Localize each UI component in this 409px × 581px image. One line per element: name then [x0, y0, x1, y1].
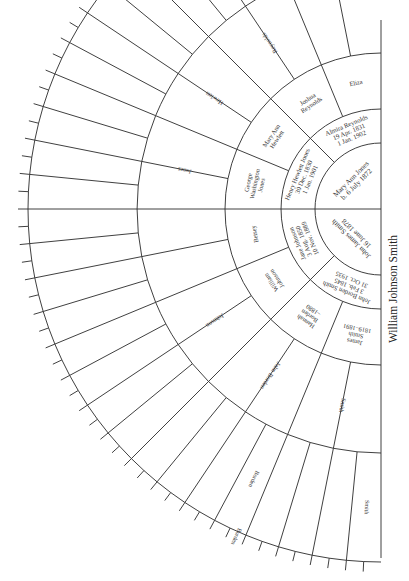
divider-line [39, 328, 48, 331]
ancestor-label: Smith [338, 397, 348, 414]
ancestor-label: Borden [230, 527, 243, 546]
divider-line [35, 140, 142, 161]
ancestor-text: Jones [177, 166, 192, 176]
divider-line [39, 87, 48, 90]
divider-line [131, 382, 208, 459]
divider-line [321, 301, 342, 353]
ancestor-text: Borden [230, 527, 243, 546]
divider-line [288, 0, 322, 65]
divider-line [22, 261, 32, 262]
divider-line [208, 319, 270, 381]
divider-line [179, 503, 185, 511]
divider-line [53, 54, 62, 58]
divider-line [34, 311, 44, 314]
divider-line [124, 459, 131, 466]
divider-line [226, 528, 230, 537]
ancestor-text: Borden [247, 470, 260, 489]
ancestor-label: Smith [364, 500, 371, 515]
ancestor-text: Johnson [205, 312, 226, 329]
ancestor-label: Betsey [249, 224, 259, 243]
ancestor-text: John Borden [259, 361, 282, 391]
ancestor-label: Henry Hewlett Jones30 Dec. 18301 Jan. 19… [283, 147, 324, 206]
divider-line [29, 295, 39, 297]
ancestor-label: John Borden [259, 361, 282, 391]
divider-line [35, 257, 142, 278]
divider-line [151, 482, 157, 490]
ancestor-label: John James Smith16 June 1878 [330, 212, 378, 260]
ancestor-label: Jones [177, 166, 192, 176]
divider-line [185, 0, 246, 6]
ancestor-label: Johnson [205, 312, 226, 329]
divider-line [185, 412, 246, 503]
divider-line [312, 448, 333, 555]
divider-line [30, 233, 138, 244]
divider-line [70, 22, 79, 27]
divider-line [208, 36, 270, 98]
ancestor-label: Jane Johnson3 Aug. 185010 Nov. 1889 [287, 220, 320, 262]
ancestor-label: Mary Ann Jonesb. 6 July 1872 [332, 160, 376, 204]
divider-line [346, 452, 357, 560]
divider-line [259, 541, 262, 550]
divider-line [79, 7, 87, 13]
ancestor-text: Reynolds [259, 31, 278, 55]
ancestor-label: JoshuaReynolds [295, 89, 323, 114]
fan-chart-labels: John James Smith16 June 1878Mary Ann Jon… [177, 31, 378, 546]
ancestor-label: Mary AnnHewlett [261, 122, 287, 152]
divider-line [237, 149, 289, 170]
divider-line [43, 280, 147, 312]
divider-line [100, 433, 108, 439]
divider-line [108, 364, 192, 433]
divider-line [276, 547, 279, 557]
divider-line [237, 247, 289, 268]
ancestor-text: Betsey [249, 224, 259, 243]
divider-line [112, 446, 119, 453]
divider-line [156, 269, 237, 303]
divider-line [34, 104, 44, 107]
fan-chart: John James Smith16 June 1878Mary Ann Jon… [0, 0, 409, 581]
divider-line [142, 239, 228, 256]
divider-line [131, 0, 208, 36]
divider-line [293, 551, 295, 561]
ancestor-label: Reynolds [259, 31, 278, 55]
ancestor-text: 1819–1891 [342, 323, 372, 335]
divider-line [61, 38, 70, 43]
divider-line [25, 138, 35, 140]
divider-line [22, 156, 32, 157]
divider-line [310, 138, 334, 162]
divider-line [156, 116, 237, 150]
divider-line [61, 375, 70, 380]
divider-line [43, 107, 147, 139]
divider-line [30, 174, 138, 185]
divider-line [288, 353, 322, 434]
divider-line [87, 345, 178, 406]
ancestor-label: Borden [247, 470, 260, 489]
ancestor-label: John Borden Smith3 Feb. 184531 Oct. 1935 [321, 267, 377, 306]
ancestor-text: Hewlett [204, 90, 224, 107]
ancestor-label: Hewlett [204, 90, 224, 107]
ancestor-label: GeorgeWashingtonJones [241, 166, 267, 201]
ancestor-text: Smith [364, 500, 371, 515]
divider-line [25, 278, 35, 280]
ancestor-text: Jones [256, 177, 266, 193]
ancestor-label: WilliamJohnson [262, 267, 285, 293]
root-person-name: William Johnson Smith [387, 235, 399, 343]
ancestor-text: Eliza [349, 78, 363, 87]
divider-line [279, 442, 311, 546]
divider-line [165, 493, 171, 501]
divider-line [157, 0, 226, 20]
divider-line [345, 560, 346, 570]
divider-line [310, 555, 312, 565]
divider-line [87, 13, 178, 74]
divider-line [20, 244, 30, 245]
divider-line [46, 70, 55, 74]
divider-line [70, 390, 79, 395]
divider-line [79, 405, 87, 411]
ancestor-label: JamesSmith1819–1891 [340, 323, 372, 349]
divider-line [53, 360, 62, 364]
divider-line [20, 173, 30, 174]
divider-line [29, 121, 39, 123]
ancestor-label: Eliza [349, 78, 363, 87]
ancestor-label: HannahBorden–1880 [295, 302, 324, 330]
divider-line [89, 419, 97, 425]
divider-line [328, 558, 329, 568]
